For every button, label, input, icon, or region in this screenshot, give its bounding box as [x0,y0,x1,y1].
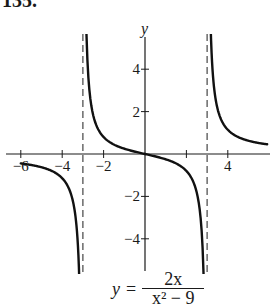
equation-denominator: x² − 9 [152,289,195,307]
equation-numerator: 2x [160,271,186,288]
y-tick-label: −4 [124,231,140,247]
x-tick-label: −6 [13,158,29,174]
y-axis-label: y [139,20,149,38]
y-tick-label: −2 [124,188,140,204]
equation-label: y = 2x x² − 9 [112,271,204,307]
x-tick-label: 4 [224,158,232,174]
y-tick-label: 2 [133,104,141,120]
equation-fraction: 2x x² − 9 [142,271,204,307]
equation-lhs: y [112,279,120,300]
y-tick-label: 4 [133,61,141,77]
x-tick-label: −2 [96,158,112,174]
x-tick-label: −4 [54,158,70,174]
equation-equals: = [126,279,136,300]
curve-branch [211,26,268,144]
curve-branch [21,163,80,282]
